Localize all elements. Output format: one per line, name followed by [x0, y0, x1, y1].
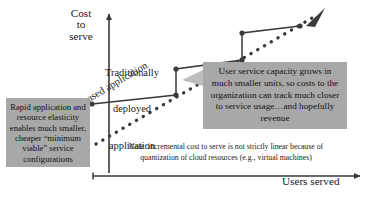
trad-label-line2: deployed: [96, 103, 168, 115]
callout-left: Rapid application and resource elasticit…: [6, 98, 90, 167]
footnote: Note: incremental cost to serve is not s…: [96, 142, 356, 164]
y-axis-label-line3: serve: [58, 31, 104, 42]
x-axis-label: Users served: [282, 176, 339, 187]
callout-right-pointer: [182, 70, 203, 86]
footnote-line2: quantization of cloud resources (e.g., v…: [96, 153, 356, 164]
y-axis-label: Costtoserve: [58, 8, 104, 42]
footnote-line1: Note: incremental cost to serve is not s…: [96, 142, 356, 153]
diagram-canvas: Costtoserve Users served Traditionally d…: [0, 0, 382, 199]
callout-right: User service capacity grows in much smal…: [203, 62, 347, 129]
